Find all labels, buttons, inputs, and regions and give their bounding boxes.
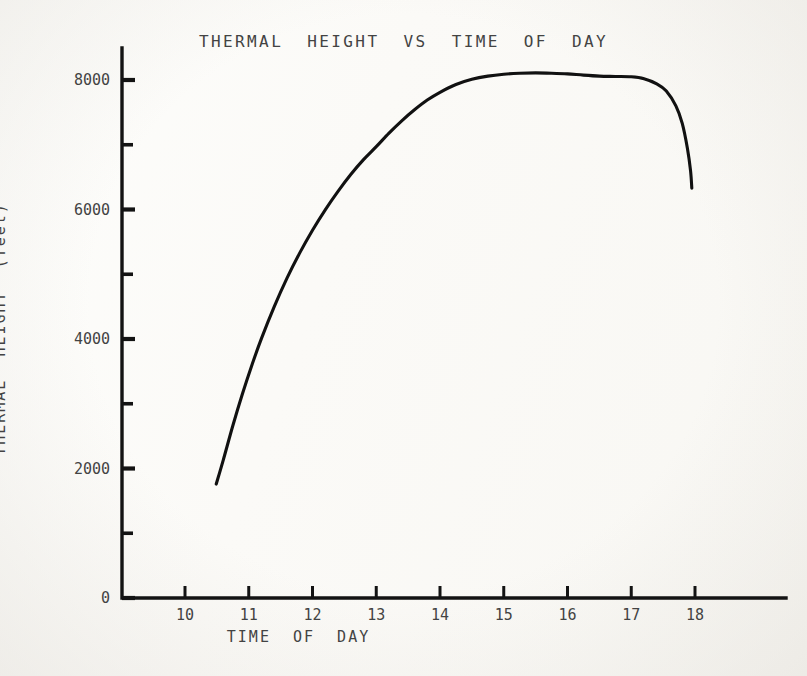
chart-title: THERMAL HEIGHT VS TIME OF DAY xyxy=(0,32,807,51)
x-tick-label: 11 xyxy=(240,606,258,624)
y-tick-label: 8000 xyxy=(0,71,110,89)
x-tick-label: 18 xyxy=(686,606,704,624)
x-tick-label: 15 xyxy=(495,606,513,624)
x-tick-label: 12 xyxy=(303,606,321,624)
chart-figure: THERMAL HEIGHT VS TIME OF DAY TIME OF DA… xyxy=(0,0,807,676)
x-axis-title: TIME OF DAY xyxy=(0,628,702,646)
y-axis-ticks xyxy=(122,80,135,598)
x-axis-ticks xyxy=(185,586,695,598)
axis-lines xyxy=(122,48,786,598)
plot-canvas xyxy=(0,0,807,676)
y-tick-label: 2000 xyxy=(0,460,110,478)
data-series-group xyxy=(216,73,692,484)
x-tick-label: 10 xyxy=(176,606,194,624)
x-tick-label: 17 xyxy=(622,606,640,624)
y-tick-label: 4000 xyxy=(0,330,110,348)
thermal-height-line xyxy=(216,73,692,484)
x-tick-label: 14 xyxy=(431,606,449,624)
x-tick-label: 13 xyxy=(367,606,385,624)
y-tick-label: 6000 xyxy=(0,201,110,219)
x-tick-label: 16 xyxy=(558,606,576,624)
y-tick-label: 0 xyxy=(0,589,110,607)
y-axis-title: THERMAL HEIGHT (feet) xyxy=(0,202,9,456)
axis-spines xyxy=(122,48,786,598)
